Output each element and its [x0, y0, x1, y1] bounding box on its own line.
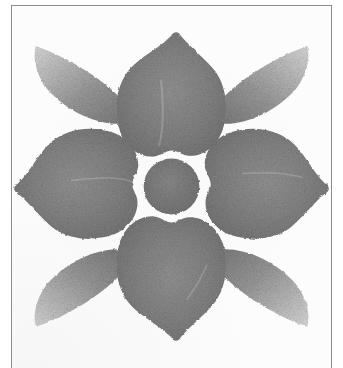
leaf-bottom-right-shape	[212, 249, 308, 327]
rosette-artwork	[12, 6, 331, 368]
artwork-frame	[11, 5, 332, 368]
petal-right-shape	[205, 129, 329, 239]
scanned-page	[0, 0, 343, 368]
leaf-top-right-shape	[212, 46, 308, 124]
petal-left-shape	[14, 129, 138, 239]
leaf-top-left-shape	[35, 46, 131, 124]
leaf-bottom-left-shape	[35, 249, 131, 327]
petal-bottom-shape	[116, 216, 226, 341]
center-disc-shape	[144, 159, 200, 215]
page-edge-margin	[0, 0, 11, 368]
petal-top-shape	[116, 32, 226, 157]
